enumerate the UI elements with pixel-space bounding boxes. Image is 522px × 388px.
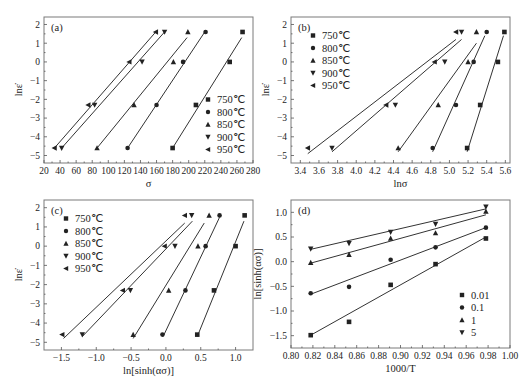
panel-label: (a) [51,22,63,34]
data-point [170,146,175,151]
legend-marker [205,147,210,152]
data-point [130,332,135,337]
legend-marker [63,254,68,259]
legend-label: 0.01 [471,290,489,301]
series-950 [52,29,158,150]
x-tick-label: 1.00 [502,351,519,361]
x-tick-label: 3.4 [294,166,306,176]
data-point [139,60,144,65]
x-tick-label: 0.5 [195,353,207,363]
data-point [430,146,435,151]
data-point [496,60,501,65]
y-tick-label: 1 [35,39,40,49]
y-tick-label: 2 [35,20,40,30]
legend-marker [205,122,210,127]
data-point [182,213,187,218]
x-tick-label: 0.98 [480,351,497,361]
y-axis-label: ln[sinh(ασ)] [252,249,264,300]
chart-panel-d: 0.800.820.840.860.880.900.920.940.960.98… [252,200,519,374]
legend-marker [459,330,464,335]
x-tick-label: 0.94 [436,351,453,361]
chart-panel-b: 3.43.63.84.04.24.44.64.85.05.25.45.6−5−4… [260,17,512,189]
data-point [125,146,130,151]
data-point [217,213,222,218]
x-tick-label: 0.84 [326,351,343,361]
data-point [388,236,393,241]
data-point [59,146,64,151]
y-tick-label: 1 [35,222,40,232]
data-point [478,103,483,108]
legend-marker [459,317,464,322]
data-point [171,59,176,64]
series-800 [430,30,489,152]
chart-panel-c: −1.5−1.0−0.50.00.51.0−5−4−3−2−1012ln[sin… [13,200,253,377]
data-point [126,59,131,64]
data-point [433,222,438,227]
data-point [484,236,489,241]
legend: 0.010.115 [459,290,489,339]
data-point [59,332,64,337]
y-tick-label: 0.5 [275,232,287,242]
legend-marker [310,83,315,88]
x-tick-label: 120 [117,166,132,176]
series-900 [59,30,167,151]
data-point [474,29,479,34]
legend-label: 750℃ [75,213,103,224]
y-tick-label: 0 [282,57,287,67]
y-axis-label: lnε̇ [260,83,271,97]
data-point [308,333,313,338]
x-tick-label: 3.6 [313,166,325,176]
data-point [453,29,458,34]
x-tick-label: 0.80 [283,351,300,361]
x-tick-label: 4.2 [369,166,381,176]
legend-marker [63,241,68,246]
y-tick-label: −3 [30,113,40,123]
data-point [346,241,351,246]
data-point [442,60,447,65]
x-tick-label: 260 [230,166,245,176]
legend: 750℃800℃850℃900℃950℃ [205,94,245,155]
x-tick-label: 3.8 [332,166,344,176]
data-point [183,288,188,293]
y-tick-label: −1 [30,76,40,86]
x-tick-label: 1.0 [230,353,242,363]
data-point [393,103,398,108]
x-tick-label: 240 [214,166,229,176]
legend-label: 800℃ [217,107,245,118]
series-0.1 [308,225,488,295]
y-tick-label: −4 [277,132,287,142]
fit-line [467,36,503,152]
data-point [172,244,177,249]
x-tick-label: 280 [246,166,261,176]
x-axis: −1.5−1.0−0.50.00.51.0 [53,347,242,363]
x-axis: 0.800.820.840.860.880.900.920.940.960.98… [283,345,519,361]
y-axis-label: lnε̇ [13,83,24,97]
y-tick-label: −1.5 [270,331,287,341]
y-tick-label: 1.0 [275,208,287,218]
x-tick-label: 0.0 [160,353,172,363]
x-tick-label: −0.5 [122,353,139,363]
series-0.01 [308,236,488,337]
x-tick-label: 0.96 [458,351,475,361]
data-point [388,283,393,288]
y-tick-label: −2 [30,280,40,290]
fit-line [54,32,155,148]
legend-marker [311,46,315,50]
legend-marker [64,229,68,233]
y-tick-label: 2 [35,203,40,213]
x-tick-label: 40 [55,166,65,176]
data-point [433,230,438,235]
legend-marker [310,71,315,76]
data-point [308,291,313,296]
y-tick-label: −5 [277,151,287,161]
x-tick-label: −1.5 [53,353,70,363]
y-tick-label: −3 [30,299,40,309]
legend-marker [311,33,315,37]
x-tick-label: 80 [87,166,97,176]
legend-label: 800℃ [322,43,350,54]
x-tick-label: −1.0 [88,353,105,363]
panel-label: (c) [51,205,63,217]
y-tick-label: −1 [277,76,287,86]
legend-marker [460,293,464,297]
x-axis-label: ln[sinh(ασ)] [123,365,174,377]
